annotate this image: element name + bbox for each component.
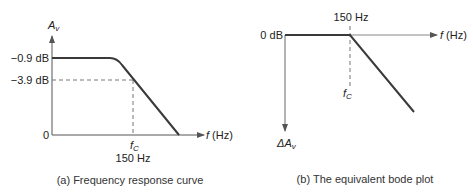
panel-a-fc-value: 150 Hz xyxy=(116,152,151,164)
panel-a-response-curve xyxy=(52,58,179,135)
panel-b-y-axis-label: ΔAv xyxy=(276,137,297,151)
panel-b-caption: (b) The equivalent bode plot xyxy=(297,173,434,185)
panel-a-y-axis-label: Av xyxy=(47,19,60,33)
panel-a-y-tick-minus0-9db: −0.9 dB xyxy=(11,52,49,64)
panel-b-fc-label: fC xyxy=(343,87,352,101)
panel-b-fc-value: 150 Hz xyxy=(334,11,369,23)
panel-a-fc-label: fC xyxy=(130,139,139,153)
panel-a-y-tick-zero: 0 xyxy=(43,129,49,141)
panel-b-x-axis-label: f (Hz) xyxy=(440,29,467,41)
panel-a-caption: (a) Frequency response curve xyxy=(57,174,204,186)
panel-b-y-tick-zero-db: 0 dB xyxy=(260,29,283,41)
panel-b-bode-plot: 0 dB 150 Hz fC f (Hz) ΔAv (b) The equiva… xyxy=(260,11,467,185)
panel-a-frequency-response: Av −0.9 dB −3.9 dB 0 f (Hz) fC 150 Hz (a… xyxy=(11,19,233,186)
diagram-canvas: Av −0.9 dB −3.9 dB 0 f (Hz) fC 150 Hz (a… xyxy=(0,0,473,195)
panel-a-y-tick-minus3-9db: −3.9 dB xyxy=(11,74,49,86)
panel-a-x-axis-label: f (Hz) xyxy=(206,129,233,141)
